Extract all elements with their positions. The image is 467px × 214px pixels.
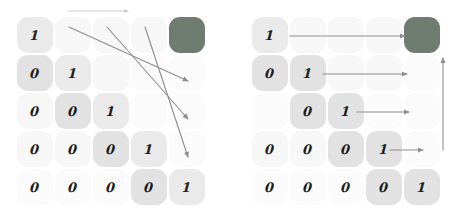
matrix-cell-r4-c0: 0: [17, 169, 53, 205]
cell-value: 1: [144, 143, 154, 156]
matrix-cell-r2-c3: [366, 93, 402, 129]
matrix-cell-r2-c0: [252, 93, 288, 129]
matrix-cell-r0-c4: [404, 17, 440, 53]
matrix-cell-r1-c0: 0: [17, 55, 53, 91]
matrix-cell-r0-c4: [169, 17, 205, 53]
cell-value: 0: [303, 143, 313, 156]
matrix-cell-r0-c0: 1: [252, 17, 288, 53]
cell-value: 0: [68, 105, 78, 118]
cell-value: 1: [265, 29, 275, 42]
cell-value: 0: [303, 181, 313, 194]
diagram-canvas: 101001000100001 10101000100001: [0, 0, 467, 214]
matrix-cell-r1-c3: [131, 55, 167, 91]
matrix-cell-r3-c0: 0: [17, 131, 53, 167]
cell-value: 0: [265, 143, 275, 156]
matrix-cell-r3-c4: [404, 131, 440, 167]
cell-value: 0: [144, 181, 154, 194]
cell-value: 0: [30, 105, 40, 118]
matrix-cell-r1-c4: [404, 55, 440, 91]
matrix-cell-r4-c1: 0: [290, 169, 326, 205]
matrix-cell-r3-c1: 0: [55, 131, 91, 167]
matrix-cell-r3-c4: [169, 131, 205, 167]
matrix-cell-r4-c4: 1: [404, 169, 440, 205]
matrix-cell-r0-c1: [290, 17, 326, 53]
matrix-cell-r3-c1: 0: [290, 131, 326, 167]
matrix-cell-r0-c2: [93, 17, 129, 53]
matrix-cell-r4-c2: 0: [328, 169, 364, 205]
matrix-cell-r2-c4: [404, 93, 440, 129]
matrix-cell-r2-c1: 0: [290, 93, 326, 129]
cell-value: 0: [68, 181, 78, 194]
matrix-cell-r0-c3: [366, 17, 402, 53]
matrix-cell-r1-c3: [366, 55, 402, 91]
matrix-cell-r4-c1: 0: [55, 169, 91, 205]
matrix-cell-r4-c3: 0: [366, 169, 402, 205]
matrix-cell-r2-c2: 1: [93, 93, 129, 129]
matrix-cell-r3-c2: 0: [328, 131, 364, 167]
cell-value: 1: [106, 105, 116, 118]
matrix-cell-r3-c0: 0: [252, 131, 288, 167]
right-matrix-panel: 10101000100001: [233, 0, 467, 214]
cell-value: 1: [68, 67, 78, 80]
matrix-cell-r1-c2: [328, 55, 364, 91]
cell-value: 0: [265, 67, 275, 80]
matrix-cell-r3-c3: 1: [131, 131, 167, 167]
matrix-cell-r2-c3: [131, 93, 167, 129]
matrix-cell-r1-c1: 1: [290, 55, 326, 91]
cell-value: 0: [265, 181, 275, 194]
cell-value: 0: [341, 181, 351, 194]
matrix-cell-r1-c0: 0: [252, 55, 288, 91]
cell-value: 0: [379, 181, 389, 194]
matrix-cell-r4-c0: 0: [252, 169, 288, 205]
cell-value: 1: [379, 143, 389, 156]
matrix-cell-r0-c3: [131, 17, 167, 53]
cell-value: 1: [182, 181, 192, 194]
matrix-cell-r1-c1: 1: [55, 55, 91, 91]
matrix-cell-r2-c0: 0: [17, 93, 53, 129]
matrix-cell-r0-c0: 1: [17, 17, 53, 53]
cell-value: 0: [303, 105, 313, 118]
cell-value: 1: [30, 29, 40, 42]
matrix-cell-r3-c2: 0: [93, 131, 129, 167]
cell-value: 0: [341, 143, 351, 156]
matrix-cell-r1-c4: [169, 55, 205, 91]
cell-value: 0: [106, 143, 116, 156]
left-matrix-panel: 101001000100001: [0, 0, 234, 214]
matrix-cell-r1-c2: [93, 55, 129, 91]
matrix-cell-r4-c3: 0: [131, 169, 167, 205]
cell-value: 1: [303, 67, 313, 80]
matrix-cell-r0-c2: [328, 17, 364, 53]
cell-value: 1: [341, 105, 351, 118]
cell-value: 0: [68, 143, 78, 156]
cell-value: 0: [106, 181, 116, 194]
cell-value: 1: [417, 181, 427, 194]
cell-value: 0: [30, 181, 40, 194]
cell-value: 0: [30, 143, 40, 156]
matrix-cell-r2-c2: 1: [328, 93, 364, 129]
matrix-cell-r0-c1: [55, 17, 91, 53]
matrix-cell-r2-c1: 0: [55, 93, 91, 129]
matrix-cell-r3-c3: 1: [366, 131, 402, 167]
matrix-cell-r4-c2: 0: [93, 169, 129, 205]
matrix-cell-r2-c4: [169, 93, 205, 129]
cell-value: 0: [30, 67, 40, 80]
matrix-cell-r4-c4: 1: [169, 169, 205, 205]
